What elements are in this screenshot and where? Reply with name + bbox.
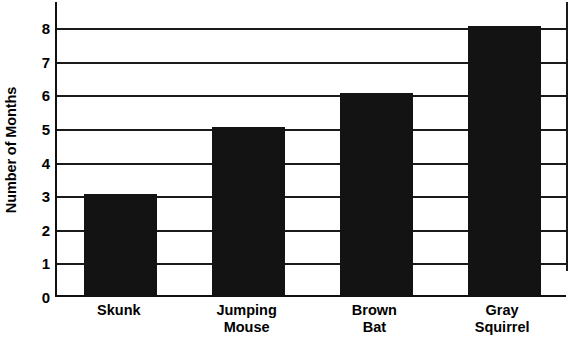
bar-brown-bat [340, 93, 413, 295]
bar-chart: Number of Months 012345678 SkunkJumpingM… [0, 0, 571, 341]
y-axis-title-text: Number of Months [3, 87, 19, 213]
x-label-line: Gray [438, 302, 566, 319]
y-tick-label-7: 7 [28, 54, 50, 69]
plot-area [55, 2, 566, 297]
y-tick-label-8: 8 [28, 21, 50, 36]
y-tick-label-3: 3 [28, 189, 50, 204]
y-tick-label-2: 2 [28, 222, 50, 237]
y-axis-title: Number of Months [0, 0, 22, 300]
y-tick-label-6: 6 [28, 88, 50, 103]
bars-layer [57, 2, 566, 295]
y-axis-tick-labels: 012345678 [28, 0, 50, 300]
x-label-line: Mouse [183, 319, 311, 336]
bar-jumping-mouse [212, 127, 285, 295]
bar-skunk [84, 194, 157, 295]
y-tick-label-5: 5 [28, 122, 50, 137]
bar-gray-squirrel [468, 26, 541, 295]
x-label-skunk: Skunk [55, 302, 183, 319]
x-label-line: Brown [311, 302, 439, 319]
y-tick-label-0: 0 [28, 290, 50, 305]
x-label-line: Squirrel [438, 319, 566, 336]
plot-right-edge [566, 2, 568, 271]
y-tick-label-1: 1 [28, 256, 50, 271]
x-label-gray-squirrel: GraySquirrel [438, 302, 566, 336]
y-tick-label-4: 4 [28, 155, 50, 170]
x-label-line: Skunk [55, 302, 183, 319]
x-axis-category-labels: SkunkJumpingMouseBrownBatGraySquirrel [55, 302, 566, 341]
x-label-brown-bat: BrownBat [311, 302, 439, 336]
x-label-line: Jumping [183, 302, 311, 319]
x-label-line: Bat [311, 319, 439, 336]
x-label-jumping-mouse: JumpingMouse [183, 302, 311, 336]
